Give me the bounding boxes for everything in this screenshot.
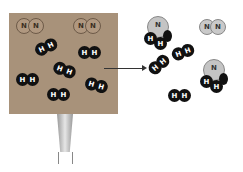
- reaction-arrow: [104, 68, 144, 69]
- nitrogen-atom: N: [85, 18, 101, 34]
- bunsen-burner: [57, 114, 73, 152]
- burner-leg: [72, 152, 73, 164]
- hydrogen-atom: H: [26, 73, 39, 86]
- hydrogen-atom: H: [57, 88, 70, 101]
- nitrogen-atom: N: [210, 19, 226, 35]
- hydrogen-atom: H: [88, 46, 101, 59]
- arrow-head-icon: [142, 65, 147, 71]
- hydrogen-atom: [163, 30, 172, 42]
- hydrogen-atom: [219, 73, 228, 85]
- hydrogen-atom: H: [178, 89, 191, 102]
- nitrogen-atom: N: [28, 18, 44, 34]
- burner-leg: [58, 152, 59, 164]
